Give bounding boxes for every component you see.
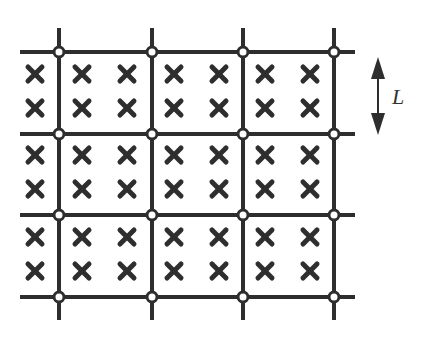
cross-icon (28, 67, 42, 81)
node-circle-icon (238, 129, 248, 139)
node-circle-icon (329, 210, 339, 220)
cross-icon (212, 148, 226, 162)
arrow-up-icon (371, 57, 385, 79)
cross-icon (120, 230, 134, 244)
cross-icon (75, 230, 89, 244)
cross-icon (212, 230, 226, 244)
cross-icon (258, 101, 272, 115)
cross-icon (28, 264, 42, 278)
lattice-diagram: L (0, 0, 426, 347)
cross-icon (75, 148, 89, 162)
node-circle-icon (54, 210, 64, 220)
cross-icon (212, 67, 226, 81)
node-circle-icon (54, 292, 64, 302)
cross-icon (75, 182, 89, 196)
grid-nodes (54, 47, 339, 302)
node-circle-icon (54, 47, 64, 57)
cross-icon (212, 182, 226, 196)
cross-icon (167, 148, 181, 162)
cross-icon (258, 264, 272, 278)
cross-icon (120, 101, 134, 115)
node-circle-icon (238, 210, 248, 220)
node-circle-icon (238, 47, 248, 57)
node-circle-icon (54, 129, 64, 139)
arrow-down-icon (371, 113, 385, 135)
node-circle-icon (147, 292, 157, 302)
cross-icon (167, 230, 181, 244)
cross-icon (258, 230, 272, 244)
cross-icon (303, 182, 317, 196)
cross-icon (28, 101, 42, 115)
node-circle-icon (329, 47, 339, 57)
cross-icon (212, 101, 226, 115)
cross-icon (258, 182, 272, 196)
cross-icon (75, 67, 89, 81)
cross-icon (212, 264, 226, 278)
cross-icon (167, 67, 181, 81)
node-circle-icon (147, 47, 157, 57)
cross-icon (258, 67, 272, 81)
node-circle-icon (238, 292, 248, 302)
cross-markers (28, 67, 317, 278)
node-circle-icon (329, 292, 339, 302)
cross-icon (167, 101, 181, 115)
cross-icon (120, 67, 134, 81)
cross-icon (303, 67, 317, 81)
node-circle-icon (147, 129, 157, 139)
cross-icon (258, 148, 272, 162)
cross-icon (28, 182, 42, 196)
length-label: L (391, 84, 404, 109)
cross-icon (75, 264, 89, 278)
cross-icon (120, 148, 134, 162)
cross-icon (28, 148, 42, 162)
dimension-arrow (371, 57, 385, 135)
cross-icon (303, 230, 317, 244)
cross-icon (120, 264, 134, 278)
cross-icon (75, 101, 89, 115)
cross-icon (303, 264, 317, 278)
cross-icon (303, 148, 317, 162)
cross-icon (120, 182, 134, 196)
node-circle-icon (329, 129, 339, 139)
cross-icon (303, 101, 317, 115)
cross-icon (167, 182, 181, 196)
node-circle-icon (147, 210, 157, 220)
cross-icon (167, 264, 181, 278)
cross-icon (28, 230, 42, 244)
